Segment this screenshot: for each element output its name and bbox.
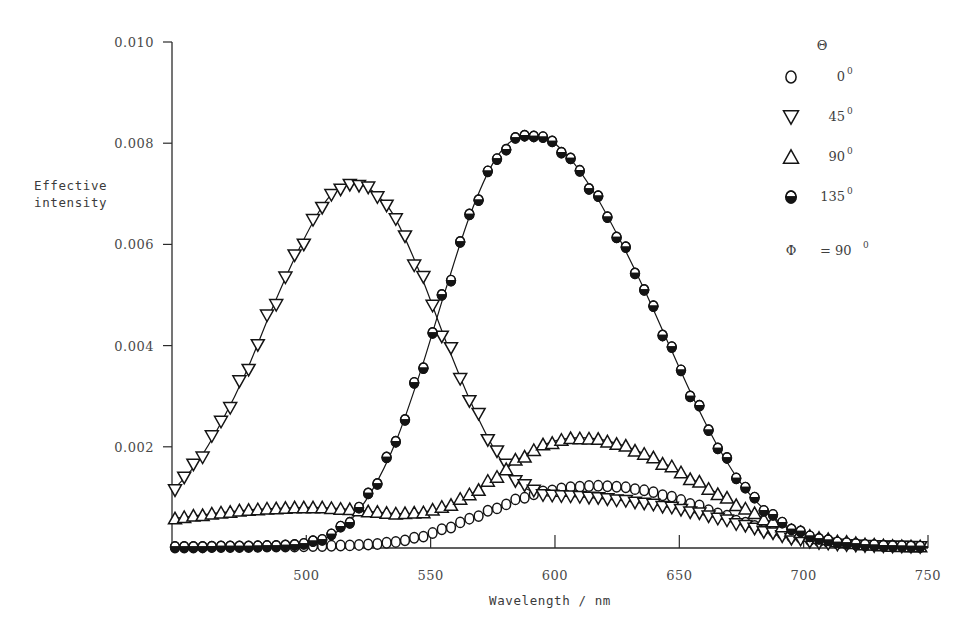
marker-open-circle — [465, 514, 474, 524]
marker-half-filled-circle — [713, 443, 722, 453]
marker-half-filled-circle — [309, 536, 318, 546]
marker-half-filled-circle — [263, 541, 272, 551]
legend-phi-degree: 0 — [863, 240, 869, 250]
marker-open-circle — [410, 533, 419, 543]
marker-open-down-triangle — [380, 200, 393, 212]
marker-open-circle — [419, 531, 428, 541]
marker-half-filled-circle — [235, 541, 244, 551]
marker-open-circle — [603, 481, 612, 491]
marker-half-filled-circle — [299, 539, 308, 549]
marker-half-filled-circle — [428, 328, 437, 338]
marker-open-down-triangle — [399, 231, 412, 243]
marker-half-filled-circle — [336, 521, 345, 531]
marker-open-down-triangle — [169, 485, 182, 497]
marker-half-filled-circle — [226, 541, 235, 551]
marker-half-filled-circle — [502, 144, 511, 154]
marker-half-filled-circle — [787, 524, 796, 534]
y-axis-tick-labels: 0.0020.0040.0060.0080.010 — [114, 35, 154, 455]
marker-open-down-triangle — [316, 202, 329, 214]
marker-open-circle — [612, 482, 621, 492]
marker-open-down-triangle — [454, 374, 467, 386]
marker-half-filled-circle — [897, 541, 906, 551]
marker-half-filled-circle — [171, 542, 180, 552]
marker-open-down-triangle — [463, 396, 476, 408]
marker-half-filled-circle — [520, 131, 529, 141]
legend-phi-symbol: Φ — [786, 243, 797, 258]
legend-phi-value: = 90 — [820, 243, 852, 258]
marker-half-filled-circle — [373, 479, 382, 489]
marker-half-filled-circle — [391, 437, 400, 447]
marker-open-circle — [437, 524, 446, 534]
legend-degree-0: 0 — [847, 66, 853, 76]
legend-rows: 004509001350 — [784, 66, 854, 204]
marker-half-filled-circle — [824, 535, 833, 545]
x-tick-label: 500 — [293, 568, 319, 583]
marker-half-filled-circle — [465, 209, 474, 219]
marker-half-filled-circle — [290, 540, 299, 550]
marker-half-filled-circle — [833, 537, 842, 547]
marker-half-filled-circle — [410, 378, 419, 388]
legend: Θ 004509001350 Φ = 90 0 — [784, 38, 870, 258]
marker-half-filled-circle — [493, 154, 502, 164]
marker-open-down-triangle — [187, 459, 200, 471]
legend-label-90: 90 — [828, 149, 845, 164]
marker-open-down-triangle — [178, 472, 191, 484]
legend-phi-annotation: Φ = 90 0 — [786, 240, 869, 258]
marker-open-down-triangle — [233, 376, 246, 388]
x-tick-label: 600 — [542, 568, 568, 583]
marker-open-down-triangle — [205, 431, 218, 443]
marker-open-circle — [493, 503, 502, 513]
x-tick-label: 550 — [417, 568, 443, 583]
marker-half-filled-circle — [649, 301, 658, 311]
y-axis-title-line1: Effective — [34, 178, 107, 193]
marker-half-filled-circle — [695, 400, 704, 410]
marker-half-filled-circle — [786, 191, 796, 203]
y-tick-label: 0.008 — [114, 136, 154, 151]
marker-half-filled-circle — [364, 488, 373, 498]
y-axis-title-line2: intensity — [34, 195, 107, 210]
marker-open-circle — [327, 541, 336, 551]
marker-half-filled-circle — [741, 482, 750, 492]
marker-open-circle — [364, 539, 373, 549]
x-axis-title: Wavelength / nm — [489, 593, 611, 608]
marker-open-down-triangle — [389, 214, 402, 226]
legend-item-0: 00 — [786, 66, 853, 84]
marker-half-filled-circle — [539, 132, 548, 142]
marker-open-down-triangle — [481, 435, 494, 447]
marker-half-filled-circle — [907, 541, 916, 551]
marker-open-circle — [474, 511, 483, 521]
marker-half-filled-circle — [842, 538, 851, 548]
markers-45 — [169, 179, 927, 553]
marker-half-filled-circle — [575, 166, 584, 176]
marker-half-filled-circle — [759, 506, 768, 516]
marker-open-circle — [456, 517, 465, 527]
marker-half-filled-circle — [631, 268, 640, 278]
marker-open-down-triangle — [472, 408, 485, 420]
marker-open-down-triangle — [288, 250, 301, 262]
marker-half-filled-circle — [686, 391, 695, 401]
marker-half-filled-circle — [557, 147, 566, 157]
marker-open-up-triangle — [784, 150, 799, 163]
marker-open-down-triangle — [261, 310, 274, 322]
marker-half-filled-circle — [879, 540, 888, 550]
marker-open-circle — [511, 494, 520, 504]
marker-open-circle — [336, 540, 345, 550]
marker-open-circle — [631, 484, 640, 494]
marker-open-down-triangle — [307, 215, 320, 227]
marker-open-circle — [621, 482, 630, 492]
legend-item-90: 900 — [784, 146, 854, 164]
marker-half-filled-circle — [437, 290, 446, 300]
legend-label-45: 45 — [828, 109, 845, 124]
marker-open-circle — [640, 485, 649, 495]
marker-open-circle — [585, 481, 594, 491]
data-markers — [169, 131, 927, 554]
marker-open-circle — [649, 487, 658, 497]
marker-half-filled-circle — [796, 526, 805, 536]
marker-half-filled-circle — [189, 542, 198, 552]
marker-half-filled-circle — [778, 517, 787, 527]
marker-half-filled-circle — [548, 136, 557, 146]
marker-open-down-triangle — [491, 446, 504, 458]
marker-open-circle — [667, 491, 676, 501]
legend-degree-45: 0 — [847, 106, 853, 116]
marker-half-filled-circle — [382, 452, 391, 462]
